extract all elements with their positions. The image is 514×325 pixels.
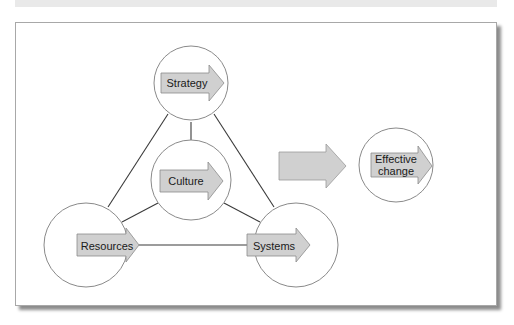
- strategy-label: Strategy: [167, 77, 208, 89]
- resources-label: Resources: [81, 240, 134, 252]
- effective-change-label-line2: change: [378, 165, 414, 177]
- systems-label: Systems: [253, 240, 296, 252]
- node-culture: Culture: [151, 140, 231, 220]
- node-systems: Systems: [247, 203, 338, 287]
- large-right-arrow-icon: [279, 144, 346, 188]
- node-effective-change: Effective change: [359, 128, 433, 202]
- change-model-diagram: Strategy Culture Resources Systems Effec…: [0, 0, 514, 325]
- culture-label: Culture: [168, 175, 203, 187]
- line-culture-resources: [122, 203, 158, 222]
- node-strategy: Strategy: [154, 46, 228, 120]
- node-resources: Resources: [44, 203, 139, 287]
- line-culture-systems: [224, 203, 260, 222]
- effective-change-label-line1: Effective: [375, 153, 417, 165]
